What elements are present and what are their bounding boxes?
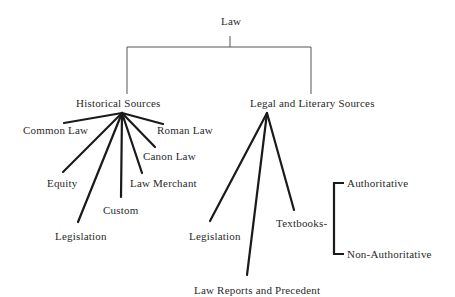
branch-legal-literary-sources: Legal and Literary Sources — [250, 97, 375, 110]
node-legislation-historical: Legislation — [55, 230, 107, 243]
node-custom: Custom — [103, 204, 138, 217]
root-label: Law — [221, 15, 241, 28]
node-roman-law: Roman Law — [157, 124, 213, 137]
edge-custom — [121, 113, 122, 197]
node-law-reports-precedent: Law Reports and Precedent — [194, 284, 320, 297]
node-canon-law: Canon Law — [143, 150, 196, 163]
edge-legislation-legal — [210, 113, 267, 221]
node-common-law: Common Law — [23, 124, 88, 137]
node-equity: Equity — [47, 177, 78, 190]
node-non-authoritative: Non-Authoritative — [347, 248, 432, 261]
node-textbooks: Textbooks- — [276, 217, 327, 230]
edge-textbooks — [267, 113, 294, 210]
node-authoritative: Authoritative — [347, 177, 408, 190]
node-law-merchant: Law Merchant — [130, 177, 197, 190]
edge-law-reports — [247, 113, 267, 275]
textbooks-bracket — [334, 183, 344, 254]
node-legislation-legal: Legislation — [189, 230, 241, 243]
branch-historical-sources: Historical Sources — [76, 97, 161, 110]
